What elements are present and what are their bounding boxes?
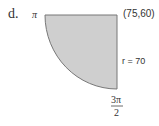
angle-end-denominator: 2	[114, 107, 119, 118]
quarter-circle-sector	[45, 15, 117, 89]
angle-start-label: π	[32, 9, 37, 20]
figure-label: d.	[8, 6, 19, 22]
corner-coordinate-label: (75,60)	[123, 8, 155, 19]
radius-label: r = 70	[122, 56, 145, 66]
angle-end-numerator: 3π	[111, 94, 121, 105]
